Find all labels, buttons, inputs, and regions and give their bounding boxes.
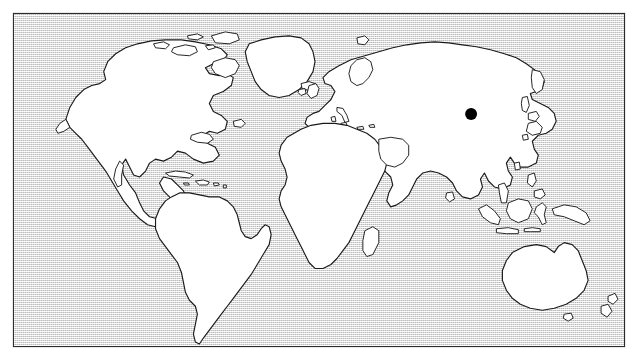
land-java [496,228,518,234]
land-borneo [506,199,532,223]
land-new-zealand-south [601,304,612,317]
location-marker[interactable] [465,108,477,120]
land-ireland [298,89,306,96]
land-arctic-islet-a [187,34,203,40]
world-map-svg [14,14,624,346]
land-philippines-luzon [527,173,536,187]
land-madagascar [363,227,379,257]
figure-root [0,0,639,364]
land-tasmania [563,313,573,321]
land-crete [357,126,364,129]
land-sulawesi [534,203,546,225]
land-puerto-rico [213,183,219,186]
land-cyprus [369,124,375,127]
land-hispaniola [195,180,209,185]
land-south-america [156,193,272,344]
land-new-guinea [552,205,590,225]
land-jamaica [183,183,189,185]
land-ellesmere-island [211,32,239,44]
land-svalbard [357,36,369,45]
land-great-britain [307,84,319,99]
land-newfoundland [233,119,245,127]
land-taiwan [514,162,520,170]
land-japan-kyushu [522,134,528,140]
land-sardinia [331,116,336,121]
land-sri-lanka [446,192,455,202]
land-philippines-mindanao [534,189,545,199]
land-cuba [166,171,194,178]
land-sumatra [478,205,500,225]
land-lesser-antilles [223,185,226,188]
land-australia [502,243,588,311]
land-lesser-sunda-islands [524,228,540,232]
land-new-zealand-north [608,293,618,304]
map-frame [13,13,625,347]
